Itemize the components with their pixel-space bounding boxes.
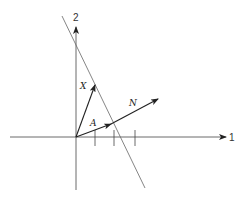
vector-a-label: A (89, 118, 97, 128)
vector-diagram: 1 2 X A N (0, 0, 245, 197)
vertical-axis-label: 2 (73, 12, 79, 23)
horizontal-axis-label: 1 (229, 132, 235, 143)
vector-n-label: N (128, 98, 138, 108)
vector-x-label: X (79, 81, 87, 91)
vector-x-arrow (76, 85, 95, 137)
